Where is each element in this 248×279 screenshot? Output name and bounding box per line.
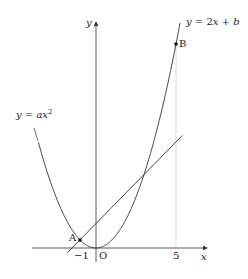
- x-tick-5: 5: [173, 251, 179, 261]
- point-b-dot: [174, 42, 178, 46]
- point-a-dot: [78, 238, 82, 242]
- point-a-label: A: [69, 233, 76, 243]
- line-equation-label: y = 2x + b: [186, 17, 240, 27]
- parabola-label-leader: [34, 128, 38, 141]
- x-tick-minus-1: −1: [74, 251, 89, 261]
- line-y-2x-b: [67, 135, 182, 253]
- parabola-equation-label: y = ax2: [16, 109, 52, 120]
- point-b-label: B: [179, 39, 186, 49]
- origin-label: O: [99, 251, 107, 261]
- x-axis-label: x: [201, 252, 207, 262]
- diagram-canvas: [0, 0, 248, 279]
- parabola-curve: [38, 23, 180, 248]
- y-axis-label: y: [86, 18, 92, 28]
